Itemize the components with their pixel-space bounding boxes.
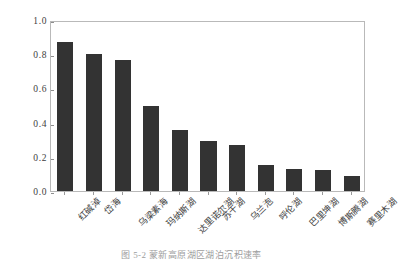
- x-tick-label: 呼伦湖: [278, 197, 304, 223]
- bar: [86, 54, 102, 191]
- x-tick-label: 红碱淖: [77, 197, 103, 223]
- x-tick-label: 博斯腾湖: [338, 197, 370, 229]
- y-tick-label: 1.0: [33, 17, 47, 27]
- x-tick-label: 乌梁素海: [137, 197, 169, 229]
- x-tick-mark: [351, 192, 352, 195]
- plot-area: 沉积速率/ (cm/a) 0.00.20.40.60.81.0: [50, 21, 365, 192]
- x-tick-mark: [322, 192, 323, 195]
- bar: [286, 169, 302, 191]
- bar: [200, 141, 216, 191]
- x-tick-mark: [208, 192, 209, 195]
- bar: [229, 145, 245, 191]
- bar: [115, 60, 131, 191]
- bar: [315, 170, 331, 191]
- x-tick-mark: [236, 192, 237, 195]
- x-tick-mark: [93, 192, 94, 195]
- x-tick-label: 乌兰泡: [249, 197, 275, 223]
- x-tick-mark: [179, 192, 180, 195]
- x-tick-mark: [64, 192, 65, 195]
- bar: [258, 165, 274, 191]
- x-tick-mark: [150, 192, 151, 195]
- figure-caption: 图 5-2 蒙新高原湖区湖泊沉积速率: [0, 248, 383, 261]
- x-tick-label: 岱海: [103, 197, 122, 216]
- y-tick-label: 0.4: [33, 120, 47, 130]
- x-tick-label: 巴里坤湖: [309, 197, 341, 229]
- bar: [143, 106, 159, 192]
- x-axis: 红碱淖岱海乌梁素海玛纳斯湖达里诺尔湖苏干湖乌兰泡呼伦湖巴里坤湖博斯腾湖赛里木湖: [0, 192, 383, 252]
- bar: [172, 130, 188, 191]
- y-tick-label: 0.8: [33, 51, 47, 61]
- x-tick-label: 赛里木湖: [366, 197, 398, 229]
- x-tick-label: 玛纳斯湖: [166, 197, 198, 229]
- x-tick-mark: [265, 192, 266, 195]
- bar: [57, 42, 73, 191]
- bar: [344, 176, 360, 191]
- x-tick-mark: [293, 192, 294, 195]
- bars-layer: [51, 22, 364, 191]
- y-tick-label: 0.2: [33, 154, 47, 164]
- y-tick-label: 0.6: [33, 86, 47, 96]
- x-tick-mark: [122, 192, 123, 195]
